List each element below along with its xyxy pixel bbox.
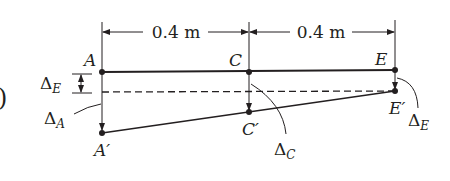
dimension-label-ce: 0.4 m <box>297 22 346 42</box>
label-a: A <box>82 50 96 70</box>
part-label-fragment: ) <box>0 84 7 112</box>
label-e-prime: E′ <box>388 98 405 118</box>
point-c <box>246 69 252 75</box>
point-c-prime <box>246 109 252 115</box>
delta-a-label: ΔA <box>44 108 65 131</box>
dimension-label-ac: 0.4 m <box>152 22 201 42</box>
label-c-prime: C′ <box>242 119 259 139</box>
delta-c-label: ΔC <box>274 139 295 162</box>
deflection-diagram: ) 0.4 m 0.4 m A C E A′ C′ E′ <box>0 0 450 181</box>
delta-e-left-label: ΔE <box>40 73 61 96</box>
point-e <box>392 67 398 73</box>
label-c: C <box>229 50 242 70</box>
label-a-prime: A′ <box>92 140 110 160</box>
delta-e-left-marker: ΔE <box>40 73 92 96</box>
dimension-ce: 0.4 m <box>250 22 394 42</box>
delta-e-right-label: ΔE <box>408 110 429 133</box>
point-e-prime <box>392 88 398 94</box>
point-a <box>99 69 105 75</box>
delta-a-leader <box>74 104 101 114</box>
label-e: E <box>374 49 388 69</box>
dimension-ac: 0.4 m <box>103 22 248 42</box>
point-a-prime <box>99 130 105 136</box>
